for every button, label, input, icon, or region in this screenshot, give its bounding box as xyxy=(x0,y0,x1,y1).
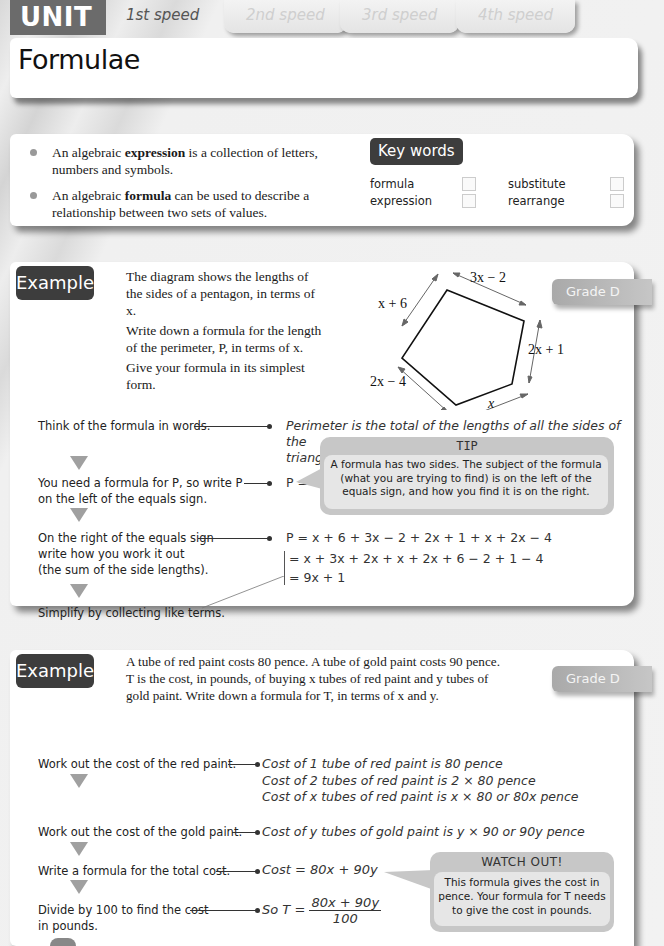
tab-3rd-speed[interactable]: 3rd speed xyxy=(340,0,459,33)
step-work-red-paint: Cost of 1 tube of red paint is 80 pence … xyxy=(262,756,579,806)
flow-arrow-down-icon xyxy=(70,774,88,788)
step-label-red-paint: Work out the cost of the red paint. xyxy=(38,756,236,772)
flow-arrow-down-icon xyxy=(70,508,88,522)
tab-4th-speed[interactable]: 4th speed xyxy=(456,0,575,33)
step-arrow xyxy=(216,871,258,872)
step-arrow xyxy=(198,538,270,539)
page-title: Formulae xyxy=(10,38,638,75)
unit-badge: UNIT 3 xyxy=(10,0,106,35)
step-work-total-cost: Cost = 80x + 90y xyxy=(262,862,378,878)
grade-badge-1: Grade D xyxy=(552,279,652,305)
label-x-plus-6: x + 6 xyxy=(378,296,407,311)
step-label-words: Think of the formula in words. xyxy=(38,418,210,434)
grade-badge-2: Grade D xyxy=(552,666,652,692)
keyword-rearrange: rearrange xyxy=(508,193,565,209)
flow-arrow-down-icon xyxy=(70,456,88,470)
label-2x-plus-1: 2x + 1 xyxy=(528,342,564,357)
step-label-right-side: On the right of the equals signwrite how… xyxy=(38,530,214,578)
step-work-sum: P = x + 6 + 3x − 2 + 2x + 1 + x + 2x − 4 xyxy=(286,530,552,546)
flow-arrow-down-icon xyxy=(70,880,88,894)
pentagon-diagram: 3x − 2 x + 6 2x + 1 2x − 4 x xyxy=(362,260,572,410)
label-x: x xyxy=(487,396,495,410)
watch-out-callout: WATCH OUT! This formula gives the cost i… xyxy=(430,852,614,932)
keyword-checkbox-substitute[interactable] xyxy=(610,177,624,191)
watch-out-pointer xyxy=(384,866,434,894)
keyword-checkbox-expression[interactable] xyxy=(462,194,476,208)
step-work-divide: So T = 80x + 90y100 xyxy=(262,895,381,926)
step-arrow xyxy=(228,764,258,765)
watch-out-title: WATCH OUT! xyxy=(430,852,614,872)
step-arrow xyxy=(244,483,270,484)
title-bar: Formulae xyxy=(10,38,638,98)
step-label-subject: You need a formula for P, so write Pon t… xyxy=(38,475,242,507)
tab-2nd-speed[interactable]: 2nd speed xyxy=(224,0,347,33)
example-2-question: A tube of red paint costs 80 pence. A tu… xyxy=(126,653,566,704)
keyword-expression: expression xyxy=(370,193,432,209)
example-badge: Example xyxy=(16,266,94,300)
fraction: 80x + 90y100 xyxy=(309,895,381,926)
step-label-total-cost: Write a formula for the total cost. xyxy=(38,863,230,879)
tip-callout: TIP A formula has two sides. The subject… xyxy=(320,437,614,515)
tip-title: TIP xyxy=(320,437,614,455)
label-2x-minus-4: 2x − 4 xyxy=(370,374,406,389)
flow-arrow-down-icon xyxy=(70,584,88,598)
speed-tabs: 1st speed 2nd speed 3rd speed 4th speed xyxy=(114,0,664,35)
step-work-gold-paint: Cost of y tubes of gold paint is y × 90 … xyxy=(262,824,585,840)
tip-body: A formula has two sides. The subject of … xyxy=(324,455,608,509)
keyword-checkbox-rearrange[interactable] xyxy=(610,194,624,208)
intro-panel: An algebraic expression is a collection … xyxy=(10,134,634,226)
step-arrow xyxy=(190,910,258,911)
step-arrow xyxy=(194,426,270,427)
step-label-divide: Divide by 100 to find the costin pounds. xyxy=(38,902,209,934)
flow-arrow-down-icon xyxy=(70,842,88,856)
keyword-substitute: substitute xyxy=(508,176,566,192)
example-badge: Example xyxy=(16,654,94,688)
page-number-tab xyxy=(50,938,76,946)
tab-1st-speed[interactable]: 1st speed xyxy=(126,0,199,33)
step-arrow xyxy=(232,832,258,833)
definition-formula: An algebraic formula can be used to desc… xyxy=(30,187,350,221)
watch-out-body: This formula gives the cost in pence. Yo… xyxy=(434,872,610,926)
keyword-formula: formula xyxy=(370,176,414,192)
definition-list: An algebraic expression is a collection … xyxy=(30,144,350,230)
keyword-checkbox-formula[interactable] xyxy=(462,177,476,191)
definition-expression: An algebraic expression is a collection … xyxy=(30,144,350,178)
label-3x-minus-2: 3x − 2 xyxy=(470,270,506,285)
keywords-title: Key words xyxy=(370,138,463,165)
example-1-question: The diagram shows the lengths of the sid… xyxy=(126,268,326,396)
step-label-gold-paint: Work out the cost of the gold paint. xyxy=(38,824,242,840)
step-label-collect: Simplify by collecting like terms. xyxy=(38,605,225,621)
step-work-simplify: = x + 3x + 2x + x + 2x + 6 − 2 + 1 − 4 =… xyxy=(284,551,543,585)
